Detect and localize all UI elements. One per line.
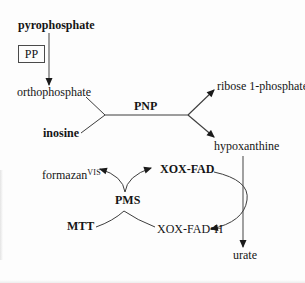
pnp-enzyme-label: PNP [134, 100, 157, 113]
formazan-label: formazanVIS [42, 166, 101, 182]
junction-to-hypoxanthine-arrow [188, 115, 214, 137]
xox-fad-reduction-curve-arrow [211, 172, 247, 229]
xox-fad-h-label: XOX-FAD•H [157, 223, 223, 236]
junction-to-ribose-arrow [188, 90, 214, 115]
pms-mediator-label: PMS [115, 194, 140, 207]
orthophosphate-label: orthophosphate [17, 86, 91, 99]
formazan-base-text: formazan [42, 168, 87, 182]
mtt-to-pms-curve [96, 211, 124, 227]
pms-to-xox-fad-curve-arrow [125, 168, 151, 192]
formazan-vis-superscript: VIS [87, 168, 101, 177]
pp-enzyme-box: PP [18, 45, 45, 63]
inosine-to-junction-line [81, 115, 105, 133]
xox-fad-label: XOX-FAD [160, 163, 214, 176]
pms-to-formazan-curve-arrow [100, 169, 125, 192]
mtt-label: MTT [67, 220, 94, 233]
ribose-1-phosphate-label: ribose 1-phosphate [217, 80, 305, 93]
xox-fad-h-to-pms-curve [124, 211, 155, 227]
hypoxanthine-label: hypoxanthine [214, 140, 279, 153]
pathway-diagram: PP pyrophosphate orthophosphate inosine … [0, 0, 305, 283]
orthophosphate-to-junction-line [86, 97, 105, 115]
urate-label: urate [233, 249, 257, 262]
pyrophosphate-label: pyrophosphate [18, 19, 94, 32]
pp-enzyme-label: PP [25, 47, 38, 62]
inosine-label: inosine [43, 127, 79, 140]
